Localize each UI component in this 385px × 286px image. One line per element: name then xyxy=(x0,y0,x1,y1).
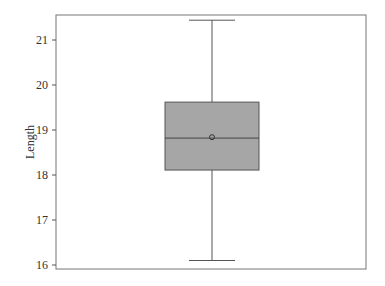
box-plot-chart: 161718192021 Length xyxy=(0,0,385,286)
y-tick-label: 20 xyxy=(36,78,48,92)
iqr-box xyxy=(165,102,259,170)
y-axis-label: Length xyxy=(23,125,37,159)
y-axis: 161718192021 xyxy=(36,33,56,272)
y-tick-label: 17 xyxy=(36,213,48,227)
y-tick-label: 21 xyxy=(36,33,48,47)
y-tick-label: 18 xyxy=(36,168,48,182)
y-tick-label: 16 xyxy=(36,258,48,272)
y-tick-label: 19 xyxy=(36,123,48,137)
